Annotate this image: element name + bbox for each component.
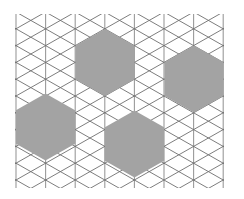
diagonal-grid-line — [10, 0, 229, 15]
hexagon-top — [75, 29, 134, 96]
hexagon-lattice-diagram — [0, 0, 244, 199]
diagonal-grid-line — [10, 193, 229, 199]
diagonal-grid-line — [10, 194, 229, 199]
hexagon-right — [164, 45, 223, 112]
hexagon-bottom — [105, 110, 164, 177]
diagonal-grid-line — [10, 177, 229, 199]
filled-hexagons — [16, 29, 224, 178]
hexagon-left — [16, 93, 75, 160]
diagonal-grid-line — [10, 0, 229, 15]
